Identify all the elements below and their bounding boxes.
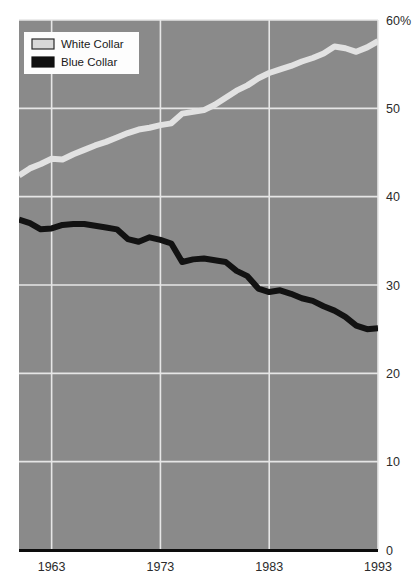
y-tick-label: 0: [386, 544, 393, 558]
line-chart: 0102030405060% 1963197319831993 White Co…: [0, 0, 418, 587]
y-tick-label: 20: [386, 367, 400, 381]
y-tick-label: 40: [386, 190, 400, 204]
x-tick-label: 1963: [38, 560, 66, 574]
x-axis-tick-labels: 1963197319831993: [38, 560, 392, 574]
x-tick-label: 1973: [147, 560, 175, 574]
x-tick-label: 1983: [255, 560, 283, 574]
y-tick-label: 10: [386, 455, 400, 469]
legend-swatch-blue-collar: [32, 57, 54, 67]
legend-label-blue-collar: Blue Collar: [61, 56, 117, 68]
legend-label-white-collar: White Collar: [61, 38, 124, 50]
x-tick-label: 1993: [364, 560, 392, 574]
chart-legend: White Collar Blue Collar: [24, 32, 139, 74]
y-tick-label: 60%: [386, 14, 411, 28]
y-tick-label: 30: [386, 279, 400, 293]
y-tick-label: 50: [386, 102, 400, 116]
legend-swatch-white-collar: [32, 39, 54, 49]
y-axis-tick-labels: 0102030405060%: [386, 14, 411, 558]
chart-figure: 0102030405060% 1963197319831993 White Co…: [0, 0, 418, 587]
